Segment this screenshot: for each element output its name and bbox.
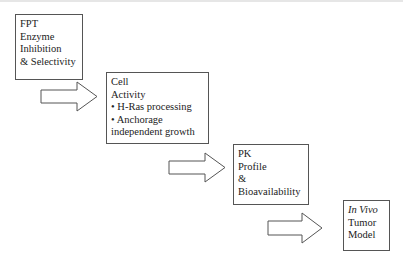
step-invivo-line-2: Tumor	[348, 217, 385, 230]
arrow-right-icon-3	[267, 212, 323, 244]
step-fpt-line-2: Enzyme	[20, 31, 78, 44]
arrow-right-icon-1	[40, 81, 98, 112]
step-cell-line-5: independent growth	[111, 126, 204, 139]
arrow-right-icon-2	[168, 152, 226, 183]
step-invivo-box: In Vivo Tumor Model	[343, 200, 390, 251]
step-pk-box: PK Profile & Bioavailability	[233, 144, 309, 205]
step-pk-line-1: PK	[238, 148, 304, 161]
step-pk-line-2: Profile	[238, 161, 304, 174]
step-fpt-box: FPT Enzyme Inhibition & Selectivity	[15, 14, 83, 80]
step-cell-box: Cell Activity • H-Ras processing • Ancho…	[106, 72, 209, 144]
step-fpt-line-3: Inhibition	[20, 43, 78, 56]
step-invivo-line-1: In Vivo	[348, 204, 385, 217]
step-fpt-line-4: & Selectivity	[20, 56, 78, 69]
step-fpt-line-1: FPT	[20, 18, 78, 31]
step-cell-line-1: Cell	[111, 76, 204, 89]
step-pk-line-3: &	[238, 173, 304, 186]
step-cell-line-2: Activity	[111, 89, 204, 102]
step-cell-line-4: • Anchorage	[111, 114, 204, 127]
top-border	[0, 0, 403, 2]
step-invivo-line-3: Model	[348, 229, 385, 242]
step-pk-line-4: Bioavailability	[238, 186, 304, 199]
step-cell-line-3: • H-Ras processing	[111, 101, 204, 114]
